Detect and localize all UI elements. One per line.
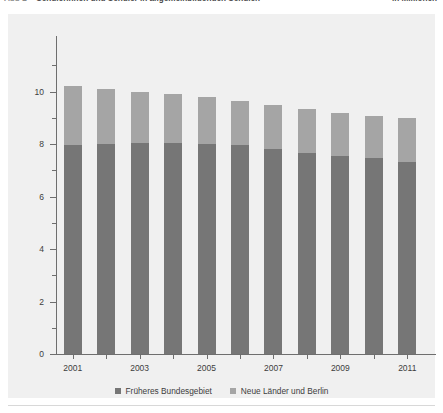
x-tick-label-2003: 2003 <box>118 364 162 373</box>
bar-segment-west-2008[interactable] <box>298 153 316 354</box>
x-tick-2001 <box>73 354 74 359</box>
bar-2001[interactable] <box>64 86 82 354</box>
bar-segment-ost-2006[interactable] <box>231 101 249 146</box>
bar-segment-ost-2001[interactable] <box>64 86 82 145</box>
x-tick-label-2001: 2001 <box>51 364 95 373</box>
bar-2011[interactable] <box>398 118 416 354</box>
x-tick-2010 <box>374 354 375 359</box>
bar-segment-ost-2010[interactable] <box>365 116 383 158</box>
legend-item-ost[interactable]: Neue Länder und Berlin <box>230 386 329 396</box>
bar-2008[interactable] <box>298 109 316 354</box>
plot-area <box>56 34 424 354</box>
legend-swatch-icon-west <box>115 388 121 394</box>
y-tick-label-6: 6 <box>8 193 44 202</box>
bar-2007[interactable] <box>264 105 282 354</box>
bar-segment-west-2009[interactable] <box>331 156 349 354</box>
page-title: Schülerinnen und Schüler in allgemeinbil… <box>36 0 260 3</box>
x-tick-2005 <box>207 354 208 359</box>
bar-segment-ost-2007[interactable] <box>264 105 282 150</box>
bar-2004[interactable] <box>164 94 182 354</box>
y-tick-label-8: 8 <box>8 140 44 149</box>
x-tick-2003 <box>140 354 141 359</box>
bar-segment-west-2011[interactable] <box>398 162 416 354</box>
figure-unit: in Millionen <box>392 0 437 3</box>
bar-segment-ost-2002[interactable] <box>97 89 115 144</box>
y-tick-label-0: 0 <box>8 350 44 359</box>
figure-number: Abb 2 <box>0 0 34 3</box>
legend-label-ost: Neue Länder und Berlin <box>241 386 329 396</box>
y-tick-label-4: 4 <box>8 245 44 254</box>
x-tick-label-2005: 2005 <box>185 364 229 373</box>
bar-segment-west-2004[interactable] <box>164 143 182 354</box>
x-tick-2007 <box>273 354 274 359</box>
footer-divider <box>8 405 435 406</box>
bar-segment-west-2010[interactable] <box>365 158 383 354</box>
x-tick-label-2009: 2009 <box>318 364 362 373</box>
bar-segment-west-2006[interactable] <box>231 145 249 354</box>
bar-2010[interactable] <box>365 116 383 354</box>
bar-2006[interactable] <box>231 101 249 354</box>
chart-legend: Früheres Bundesgebiet Neue Länder und Be… <box>8 386 435 396</box>
legend-label-west: Früheres Bundesgebiet <box>126 386 212 396</box>
x-axis-line <box>52 354 436 355</box>
bar-segment-west-2001[interactable] <box>64 145 82 354</box>
bar-2005[interactable] <box>198 97 216 354</box>
bar-segment-ost-2004[interactable] <box>164 94 182 143</box>
bar-segment-west-2003[interactable] <box>131 143 149 354</box>
y-tick-0 <box>50 354 56 355</box>
figure-title-bar: Abb 2 Schülerinnen und Schüler in allgem… <box>0 0 443 11</box>
x-tick-label-2007: 2007 <box>251 364 295 373</box>
bar-2002[interactable] <box>97 89 115 354</box>
x-tick-2006 <box>240 354 241 359</box>
bar-2009[interactable] <box>331 113 349 355</box>
y-tick-label-2: 2 <box>8 298 44 307</box>
x-tick-2004 <box>173 354 174 359</box>
x-tick-2002 <box>106 354 107 359</box>
x-tick-2009 <box>340 354 341 359</box>
bar-segment-ost-2005[interactable] <box>198 97 216 144</box>
bar-segment-west-2002[interactable] <box>97 144 115 354</box>
chart-panel: 0246810 200120032005200720092011 Frühere… <box>8 14 435 398</box>
x-tick-label-2011: 2011 <box>385 364 429 373</box>
bar-segment-ost-2008[interactable] <box>298 109 316 154</box>
bar-segment-ost-2003[interactable] <box>131 92 149 143</box>
bar-2003[interactable] <box>131 92 149 355</box>
x-tick-2011 <box>407 354 408 359</box>
bar-segment-west-2005[interactable] <box>198 144 216 354</box>
bar-segment-ost-2011[interactable] <box>398 118 416 163</box>
x-tick-2008 <box>307 354 308 359</box>
legend-swatch-icon-ost <box>230 388 236 394</box>
bar-segment-west-2007[interactable] <box>264 149 282 354</box>
y-tick-label-10: 10 <box>8 88 44 97</box>
legend-item-west[interactable]: Früheres Bundesgebiet <box>115 386 212 396</box>
bar-segment-ost-2009[interactable] <box>331 113 349 156</box>
